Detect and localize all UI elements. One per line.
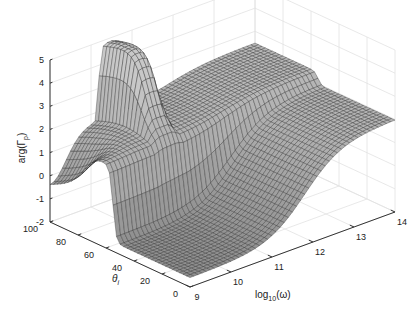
x-tick-label: 9 — [194, 292, 199, 302]
x-tick-label: 11 — [274, 262, 283, 272]
z-tick-label: 1 — [39, 148, 44, 158]
x-tick-label: 14 — [397, 217, 407, 227]
x-tick-label: 12 — [315, 247, 325, 257]
surface-mesh — [50, 41, 395, 278]
z-tick-label: 3 — [39, 101, 44, 111]
y-tick-label: 0 — [173, 289, 178, 299]
x-tick-label: 10 — [233, 277, 243, 287]
y-tick-label: 80 — [56, 237, 66, 247]
z-tick-label: -2 — [36, 217, 44, 227]
y-tick-label: 40 — [112, 263, 122, 273]
z-tick-label: -1 — [36, 194, 44, 204]
x-tick-label: 13 — [356, 232, 366, 242]
y-tick-label: 20 — [140, 276, 150, 286]
y-tick-label: 60 — [84, 250, 94, 260]
x-axis-label: log10(ω) — [255, 289, 291, 302]
z-tick-label: 4 — [39, 78, 44, 88]
z-tick-label: 2 — [39, 124, 44, 134]
z-tick-label: 0 — [39, 171, 44, 181]
z-tick-label: 5 — [39, 55, 44, 65]
y-axis-label: θi — [112, 273, 119, 286]
surface-plot: 91011121314020406080100-2-1012345 arg(Γp… — [0, 0, 410, 317]
z-axis-label: arg(Γp) — [16, 133, 30, 164]
